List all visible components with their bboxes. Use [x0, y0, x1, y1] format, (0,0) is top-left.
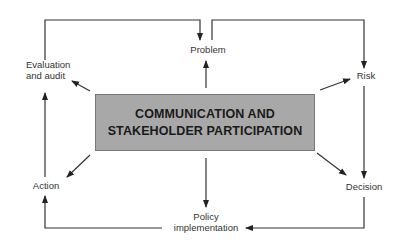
- edge-center-to-action: [67, 155, 90, 177]
- edge-decision-to-policy: [246, 197, 364, 228]
- node-evaluation-audit: Evaluation and audit: [26, 59, 72, 81]
- edge-problem-to-risk: [212, 20, 364, 68]
- evaluation-line1: Evaluation: [26, 59, 72, 70]
- policy-line2: implementation: [166, 222, 246, 233]
- edge-policy-to-action: [45, 196, 162, 228]
- node-action: Action: [28, 180, 64, 191]
- center-title-line1: COMMUNICATION AND: [135, 106, 275, 123]
- edge-center-to-evaluation: [72, 81, 90, 91]
- policy-line1: Policy: [166, 211, 246, 222]
- edge-center-to-risk: [320, 79, 350, 90]
- node-policy-implementation: Policy implementation: [166, 211, 246, 233]
- edge-evaluation-to-problem: [45, 20, 200, 60]
- node-decision: Decision: [338, 181, 390, 192]
- node-problem: Problem: [184, 44, 232, 55]
- evaluation-line2: and audit: [26, 70, 72, 81]
- communication-participation-box: COMMUNICATION AND STAKEHOLDER PARTICIPAT…: [95, 94, 315, 151]
- edge-center-to-decision: [317, 153, 346, 175]
- center-title-line2: STAKEHOLDER PARTICIPATION: [108, 123, 303, 140]
- node-risk: Risk: [352, 70, 380, 81]
